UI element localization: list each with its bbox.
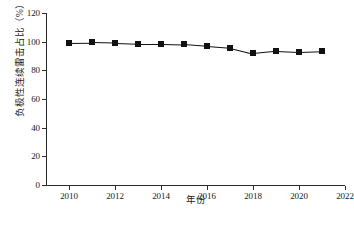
x-axis-tick <box>299 186 300 190</box>
y-axis-tick-label: 20 <box>31 152 40 161</box>
data-series-negative-polarity <box>46 13 345 186</box>
y-axis-title: 负极性连续雷击占比（%） <box>14 0 26 132</box>
x-axis-title: 年份 <box>46 194 345 206</box>
x-axis-tick <box>161 186 162 190</box>
data-point-marker <box>135 41 141 47</box>
data-point-marker <box>112 40 118 46</box>
data-point-marker <box>66 40 72 46</box>
x-axis-tick <box>345 186 346 190</box>
data-point-marker <box>181 41 187 47</box>
data-point-marker <box>250 50 256 56</box>
x-axis-tick <box>253 186 254 190</box>
y-axis-tick-label: 60 <box>31 95 40 104</box>
data-point-marker <box>319 48 325 54</box>
y-axis-tick-label: 0 <box>36 181 40 190</box>
data-point-marker <box>89 39 95 45</box>
data-point-marker <box>296 49 302 55</box>
y-axis-tick-label: 80 <box>31 66 40 75</box>
chart-figure: 2010201220142016201820202022 02040608010… <box>0 0 354 225</box>
y-axis-tick-label: 100 <box>27 37 40 46</box>
data-point-marker <box>273 48 279 54</box>
y-axis-tick-label: 40 <box>31 123 40 132</box>
data-point-marker <box>227 45 233 51</box>
x-axis-tick <box>207 186 208 190</box>
data-point-marker <box>158 41 164 47</box>
x-axis-tick <box>115 186 116 190</box>
x-axis-tick <box>69 186 70 190</box>
data-point-marker <box>204 43 210 49</box>
plot-area: 2010201220142016201820202022 <box>46 13 345 186</box>
y-axis-tick-label: 120 <box>27 9 40 18</box>
